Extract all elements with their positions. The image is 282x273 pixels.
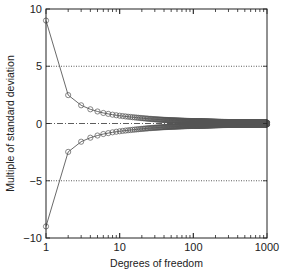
y-axis-label: Multiple of standard deviation: [4, 55, 16, 192]
x-tick-label: 10: [114, 241, 126, 253]
y-tick-label: 10: [30, 3, 42, 15]
y-tick-label: −5: [29, 175, 42, 187]
y-tick-label: 5: [36, 60, 42, 72]
x-tick-label: 1000: [255, 241, 279, 253]
x-axis-label: Degrees of freedom: [110, 257, 203, 269]
x-tick-label: 1: [43, 241, 49, 253]
chart: 1101001000−10−50510 Degrees of freedom M…: [0, 0, 282, 273]
y-tick-label: −10: [23, 232, 42, 244]
x-tick-label: 100: [184, 241, 202, 253]
series-upper: [43, 18, 269, 125]
y-tick-label: 0: [36, 118, 42, 130]
series-lower: [43, 122, 269, 229]
